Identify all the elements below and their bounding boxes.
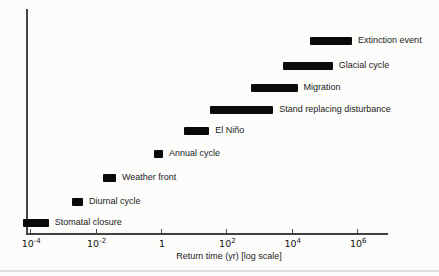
chart-bar xyxy=(310,37,352,45)
x-tick-label: 10-4 xyxy=(22,238,41,249)
scan-artifact-line xyxy=(0,270,439,272)
x-axis-title: Return time (yr) [log scale] xyxy=(176,251,282,261)
bar-label: El Niño xyxy=(215,125,244,135)
chart-bar xyxy=(154,150,163,158)
chart-bar xyxy=(184,127,209,135)
x-tick-label: 106 xyxy=(350,238,367,249)
x-tick-label: 102 xyxy=(219,238,236,249)
bar-label: Annual cycle xyxy=(169,148,220,158)
bar-label: Migration xyxy=(304,82,341,92)
x-tick-mark xyxy=(226,229,227,233)
x-axis-line xyxy=(26,233,388,235)
bar-label: Stand replacing disturbance xyxy=(279,104,391,114)
bar-label: Stomatal closure xyxy=(55,217,122,227)
chart-bar xyxy=(210,106,273,114)
chart-bar xyxy=(72,198,83,206)
x-tick-mark xyxy=(292,229,293,233)
chart-bar xyxy=(283,62,333,70)
x-tick-label: 104 xyxy=(285,238,302,249)
chart-bar xyxy=(23,219,49,227)
y-axis-line xyxy=(26,9,28,234)
x-tick-label: 10-2 xyxy=(87,238,106,249)
x-tick-mark xyxy=(161,229,162,233)
chart-bar xyxy=(103,174,116,182)
x-tick-mark xyxy=(357,229,358,233)
x-tick-mark xyxy=(30,229,31,233)
chart-bar xyxy=(251,84,298,92)
bar-label: Weather front xyxy=(122,172,176,182)
return-time-chart: 10-410-21102104106 Extinction eventGlaci… xyxy=(0,0,439,276)
bar-label: Glacial cycle xyxy=(339,60,390,70)
x-tick-label: 1 xyxy=(159,238,165,249)
bar-label: Diurnal cycle xyxy=(89,196,141,206)
x-tick-mark xyxy=(96,229,97,233)
bar-label: Extinction event xyxy=(358,35,422,45)
